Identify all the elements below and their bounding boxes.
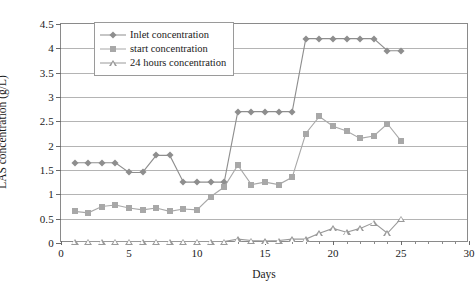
data-point-marker xyxy=(329,225,337,231)
data-point-marker xyxy=(383,230,391,236)
data-point-marker xyxy=(220,239,228,245)
data-point-marker xyxy=(152,239,160,245)
data-point-marker xyxy=(139,239,147,245)
data-point-marker xyxy=(247,238,255,244)
x-axis-tick-label: 0 xyxy=(58,247,64,259)
legend-marker xyxy=(110,46,116,52)
data-point-marker xyxy=(344,128,350,134)
legend-marker xyxy=(109,60,117,66)
data-point-marker xyxy=(208,194,214,200)
data-point-marker xyxy=(275,238,283,244)
chart-figure: 00.511.522.533.544.5 051015202530 LAS co… xyxy=(0,0,476,290)
data-point-marker xyxy=(111,239,119,245)
data-point-marker xyxy=(289,174,295,180)
data-point-marker xyxy=(153,205,159,211)
data-point-marker xyxy=(179,239,187,245)
data-point-marker xyxy=(167,208,173,214)
data-point-marker xyxy=(302,236,310,242)
y-axis-tick-label: 3.5 xyxy=(40,67,54,79)
data-point-marker xyxy=(234,236,242,242)
data-point-marker xyxy=(371,133,377,139)
data-point-marker xyxy=(288,236,296,242)
legend-marker xyxy=(109,31,116,38)
data-point-marker xyxy=(71,239,79,245)
data-point-marker xyxy=(398,138,404,144)
data-point-marker xyxy=(166,239,174,245)
legend-marker-icon xyxy=(100,57,126,69)
data-point-marker xyxy=(343,229,351,235)
x-axis-tick-label: 15 xyxy=(260,247,271,259)
data-point-marker xyxy=(357,135,363,141)
data-point-marker xyxy=(276,182,282,188)
data-point-marker xyxy=(356,225,364,231)
data-point-marker xyxy=(262,179,268,185)
legend-label: start concentration xyxy=(130,43,208,55)
y-axis-tick-label: 4 xyxy=(48,42,54,54)
y-axis-tick-label: 0 xyxy=(48,237,54,249)
legend-item-0: Inlet concentration xyxy=(100,28,226,42)
data-point-marker xyxy=(84,239,92,245)
data-point-marker xyxy=(330,123,336,129)
data-point-marker xyxy=(221,184,227,190)
data-point-marker xyxy=(193,239,201,245)
x-axis-tick-label: 25 xyxy=(396,247,407,259)
x-axis-tick-label: 20 xyxy=(328,247,339,259)
data-point-marker xyxy=(248,182,254,188)
data-point-marker xyxy=(140,207,146,213)
legend-marker-icon xyxy=(100,29,126,41)
legend-item-2: 24 hours concentration xyxy=(100,56,226,70)
x-axis-tick-label: 30 xyxy=(464,247,475,259)
data-point-marker xyxy=(194,207,200,213)
data-point-marker xyxy=(370,220,378,226)
data-point-marker xyxy=(126,205,132,211)
data-point-marker xyxy=(384,121,390,127)
data-point-marker xyxy=(85,210,91,216)
y-axis-tick-label: 1.5 xyxy=(40,164,54,176)
x-axis-tick-label: 5 xyxy=(126,247,132,259)
data-point-marker xyxy=(315,230,323,236)
data-point-marker xyxy=(303,131,309,137)
x-axis-tick-label: 10 xyxy=(192,247,203,259)
data-point-marker xyxy=(316,113,322,119)
x-axis-title: Days xyxy=(252,268,276,280)
y-axis-tick-label: 2 xyxy=(48,140,54,152)
y-axis-tick-label: 3 xyxy=(48,91,54,103)
legend-marker-icon xyxy=(100,43,126,55)
chart-legend: Inlet concentrationstart concentration24… xyxy=(94,22,234,76)
data-point-marker xyxy=(98,239,106,245)
x-axis-tick-major xyxy=(469,241,470,245)
data-point-marker xyxy=(207,239,215,245)
y-axis-tick-label: 2.5 xyxy=(40,115,54,127)
data-point-marker xyxy=(72,208,78,214)
data-point-marker xyxy=(235,162,241,168)
y-axis-tick-label: 4.5 xyxy=(40,18,54,30)
data-point-marker xyxy=(180,206,186,212)
y-axis-tick-label: 0.5 xyxy=(40,213,54,225)
data-point-marker xyxy=(99,204,105,210)
data-point-marker xyxy=(261,238,269,244)
legend-label: 24 hours concentration xyxy=(130,57,226,69)
y-axis-title: LAS concentration (g/L) xyxy=(0,75,8,189)
data-point-marker xyxy=(112,202,118,208)
legend-label: Inlet concentration xyxy=(130,29,209,41)
data-point-marker xyxy=(397,216,405,222)
y-axis-tick-label: 1 xyxy=(48,188,54,200)
legend-item-1: start concentration xyxy=(100,42,226,56)
data-point-marker xyxy=(125,239,133,245)
